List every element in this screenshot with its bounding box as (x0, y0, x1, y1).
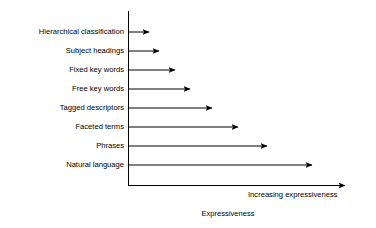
figure-caption: Expressiveness (201, 209, 254, 218)
row-label: Faceted terms (75, 122, 124, 131)
row-label: Free key words (72, 84, 124, 93)
row-group-6: Phrases (96, 141, 267, 150)
row-label: Natural language (66, 160, 124, 169)
row-group-5: Faceted terms (75, 122, 238, 131)
row-group-1: Subject headings (66, 46, 159, 55)
axis-annotation-label: Increasing expressiveness (248, 190, 338, 199)
row-group-2: Fixed key words (69, 65, 175, 74)
row-label: Phrases (96, 141, 124, 150)
row-group-0: Hierarchical classification (39, 27, 149, 36)
row-group-3: Free key words (72, 84, 190, 93)
row-group-7: Natural language (66, 160, 312, 169)
row-label: Hierarchical classification (39, 27, 124, 36)
expressiveness-diagram: Hierarchical classification Subject head… (0, 0, 376, 228)
row-group-4: Tagged descriptors (60, 103, 212, 112)
row-label: Subject headings (66, 46, 124, 55)
diagram-canvas: Hierarchical classification Subject head… (0, 0, 376, 228)
row-label: Fixed key words (69, 65, 124, 74)
row-label: Tagged descriptors (60, 103, 124, 112)
